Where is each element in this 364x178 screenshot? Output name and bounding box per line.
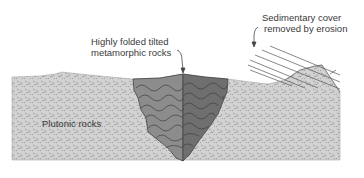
sedimentary-arrow-icon (254, 27, 258, 44)
metamorphic-label-line2: metamorphic rocks (91, 47, 171, 58)
sedimentary-label-line2: removed by erosion (264, 23, 347, 34)
metamorphic-label-line1: Highly folded tilted (91, 36, 169, 47)
geology-diagram: Highly folded tilted metamorphic rocks S… (0, 0, 364, 178)
metamorphic-arrow-icon (177, 50, 183, 70)
arrows (177, 27, 258, 73)
sedimentary-label-line1: Sedimentary cover (262, 12, 341, 23)
plutonic-label: Plutonic rocks (42, 118, 101, 129)
